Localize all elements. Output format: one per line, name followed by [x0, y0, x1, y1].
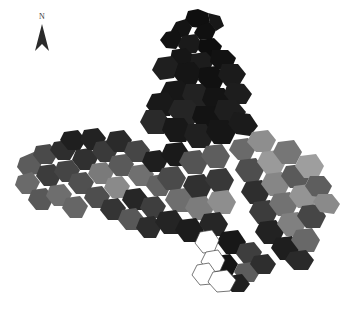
map-polygon[interactable]	[62, 196, 88, 218]
map-lobe-west	[15, 128, 172, 238]
map-figure: N	[0, 0, 353, 309]
choropleth-map[interactable]	[0, 0, 353, 309]
map-lobe-north	[140, 9, 258, 148]
